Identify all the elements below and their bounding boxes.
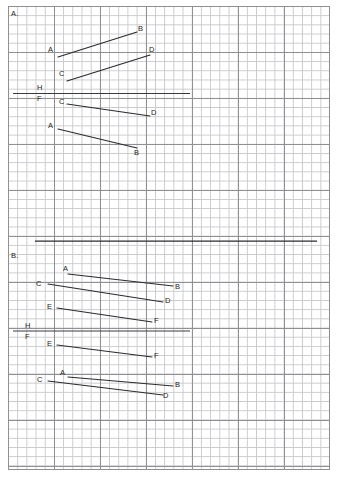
endpoint-label-f-segment-ef-bottom-section-b: F <box>154 352 159 360</box>
endpoint-label-c-segment-cd-top-section-b: C <box>36 280 42 288</box>
endpoint-label-a-segment-ab-bottom-section-b: A <box>60 369 65 377</box>
segment-ab-bottom-section-a <box>58 129 137 148</box>
reference-label-f-section-a: F <box>37 95 42 103</box>
endpoint-label-c-segment-cd-bottom-section-a: C <box>59 98 65 106</box>
drawing-layer <box>0 0 340 485</box>
endpoint-label-c-segment-cd-top-section-a: C <box>59 70 65 78</box>
segment-ab-bottom-section-b <box>68 377 173 386</box>
endpoint-label-a-segment-ab-top-section-a: A <box>48 46 53 54</box>
segment-cd-bottom-section-a <box>67 104 150 116</box>
reference-label-h-section-b: H <box>25 322 31 330</box>
endpoint-label-c-segment-cd-bottom-section-b: C <box>37 376 43 384</box>
section-caption-section-b: B. <box>11 252 19 260</box>
segment-ef-bottom-section-b <box>57 345 152 357</box>
segment-ab-top-section-b <box>68 274 173 286</box>
endpoint-label-d-segment-cd-top-section-b: D <box>165 297 171 305</box>
reference-label-h-section-a: H <box>37 84 43 92</box>
endpoint-label-b-segment-ab-bottom-section-b: B <box>175 381 180 389</box>
endpoint-label-b-segment-ab-bottom-section-a: B <box>134 149 139 157</box>
worksheet-page: A.HFABCDCDABB.HFABCDEFEFABCD <box>0 0 340 485</box>
endpoint-label-e-segment-ef-bottom-section-b: E <box>47 340 52 348</box>
endpoint-label-a-segment-ab-top-section-b: A <box>63 265 68 273</box>
endpoint-label-b-segment-ab-top-section-a: B <box>138 25 143 33</box>
endpoint-label-e-segment-ef-top-section-b: E <box>47 303 52 311</box>
endpoint-label-a-segment-ab-bottom-section-a: A <box>48 122 53 130</box>
endpoint-label-d-segment-cd-top-section-a: D <box>149 46 155 54</box>
section-caption-section-a: A. <box>11 10 19 18</box>
segment-cd-top-section-a <box>67 55 150 81</box>
segment-cd-top-section-b <box>48 284 163 302</box>
endpoint-label-d-segment-cd-bottom-section-b: D <box>163 392 169 400</box>
endpoint-label-f-segment-ef-top-section-b: F <box>154 317 159 325</box>
reference-label-f-section-b: F <box>25 333 30 341</box>
endpoint-label-b-segment-ab-top-section-b: B <box>175 283 180 291</box>
segment-ef-top-section-b <box>57 308 152 322</box>
segment-ab-top-section-a <box>58 32 137 57</box>
endpoint-label-d-segment-cd-bottom-section-a: D <box>151 109 157 117</box>
